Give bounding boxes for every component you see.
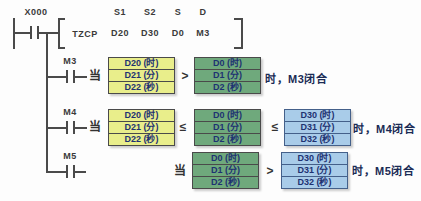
time-cell: D21 (分) (109, 121, 174, 133)
contact-label-x000: X000 (18, 7, 54, 17)
open-bracket (58, 18, 65, 20)
m4-contact-bar (66, 121, 68, 134)
contact-label-m3: M3 (58, 56, 82, 66)
param-value-s1: D20 (106, 28, 134, 38)
time-cell: D21 (分) (109, 69, 174, 81)
comparison-operator: > (263, 164, 277, 178)
param-value-d: M3 (189, 28, 217, 38)
time-cell: D31 (分) (282, 164, 347, 176)
rung-line (47, 76, 66, 78)
close-bracket (234, 47, 242, 49)
time-cell: D0 (时) (195, 58, 260, 69)
param-header-d: D (189, 7, 217, 17)
time-cell: D2 (秒) (195, 81, 260, 93)
close-bracket (234, 18, 242, 20)
time-cell: D30 (时) (282, 153, 347, 164)
time-cell: D31 (分) (285, 121, 350, 133)
rung-line (39, 32, 58, 34)
s-time-box: D0 (时) D1 (分) D2 (秒) (194, 109, 261, 146)
when-label: 当 (89, 70, 101, 83)
s2-time-box: D30 (时) D31 (分) D32 (秒) (284, 109, 351, 146)
rung-line (75, 127, 87, 129)
result-annotation-m4: 时，M4闭合 (353, 123, 415, 135)
comparison-operator: > (178, 69, 192, 83)
rung-line (75, 171, 86, 173)
time-cell: D1 (分) (193, 164, 258, 176)
time-cell: D22 (秒) (109, 133, 174, 145)
s-time-box: D0 (时) D1 (分) D2 (秒) (194, 57, 261, 94)
open-bracket (58, 47, 65, 49)
comparison-operator: ≤ (268, 120, 282, 134)
s1-time-box: D20 (时) D21 (分) D22 (秒) (108, 57, 175, 94)
m3-contact-bar (66, 70, 68, 83)
m5-contact-bar (66, 165, 68, 178)
time-cell: D32 (秒) (282, 176, 347, 188)
param-header-s: S (164, 7, 192, 17)
time-cell: D30 (时) (285, 110, 350, 121)
time-cell: D20 (时) (109, 58, 174, 69)
contact-label-m4: M4 (58, 107, 82, 117)
s2-time-box: D30 (时) D31 (分) D32 (秒) (281, 152, 348, 189)
when-label: 当 (89, 121, 101, 134)
time-cell: D32 (秒) (285, 133, 350, 145)
param-header-s2: S2 (136, 7, 164, 17)
x000-contact-bar (30, 26, 32, 39)
close-bracket (241, 18, 243, 49)
ladder-diagram: X000 TZCP S1 S2 S D D20 D30 D0 M3 M3 当 D… (0, 0, 421, 201)
result-annotation-m5: 时，M5闭合 (352, 165, 414, 177)
instruction-name: TZCP (66, 29, 104, 39)
time-cell: D2 (秒) (195, 133, 260, 145)
param-value-s2: D30 (136, 28, 164, 38)
rung-line (75, 76, 87, 78)
when-label: 当 (174, 165, 186, 178)
param-value-s: D0 (164, 28, 192, 38)
time-cell: D0 (时) (195, 110, 260, 121)
param-header-s1: S1 (106, 7, 134, 17)
time-cell: D22 (秒) (109, 81, 174, 93)
time-cell: D20 (时) (109, 110, 174, 121)
result-annotation-m3: 时，M3闭合 (265, 73, 327, 85)
open-bracket (58, 18, 60, 49)
time-cell: D1 (分) (195, 69, 260, 81)
contact-label-m5: M5 (58, 151, 82, 161)
comparison-operator: ≤ (176, 120, 190, 134)
time-cell: D2 (秒) (193, 176, 258, 188)
branch-line (46, 32, 48, 173)
s-time-box: D0 (时) D1 (分) D2 (秒) (192, 152, 259, 189)
rung-line (13, 32, 30, 34)
time-cell: D1 (分) (195, 121, 260, 133)
time-cell: D0 (时) (193, 153, 258, 164)
s1-time-box: D20 (时) D21 (分) D22 (秒) (108, 109, 175, 146)
rung-line (47, 127, 66, 129)
rung-line (47, 171, 66, 173)
